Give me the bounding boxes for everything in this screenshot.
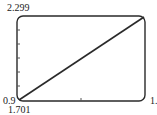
data-line: [19, 17, 144, 100]
x-max-label: 1.: [150, 96, 157, 106]
chart-plot: [0, 0, 157, 115]
y-max-label: 2.299: [7, 3, 30, 13]
y-min-label: 1.701: [8, 105, 31, 115]
